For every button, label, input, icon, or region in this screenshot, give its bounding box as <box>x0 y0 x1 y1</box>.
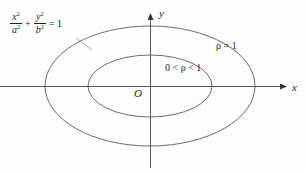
x-numerator-exponent: 2 <box>17 10 20 17</box>
ellipse-figure: x2 a2 + y2 b2 = 1 y x O ρ = 1 0 < ρ < 1 <box>0 0 305 174</box>
inner-ellipse-label: 0 < ρ < 1 <box>165 63 201 73</box>
origin-label: O <box>134 88 142 99</box>
outer-ellipse-label: ρ = 1 <box>216 41 237 51</box>
x-denominator-exponent: 2 <box>17 23 20 30</box>
plus-operator: + <box>24 19 32 29</box>
y-axis-label: y <box>159 8 164 19</box>
x-term-fraction: x2 a2 <box>10 12 22 35</box>
x-axis-label: x <box>292 82 297 93</box>
equation-leader-line <box>76 38 92 50</box>
y-denominator-exponent: 2 <box>41 23 44 30</box>
equation-equals-one: = 1 <box>48 19 63 29</box>
ellipse-equation: x2 a2 + y2 b2 = 1 <box>10 12 63 35</box>
y-term-fraction: y2 b2 <box>34 12 46 35</box>
y-numerator-exponent: 2 <box>40 10 43 17</box>
